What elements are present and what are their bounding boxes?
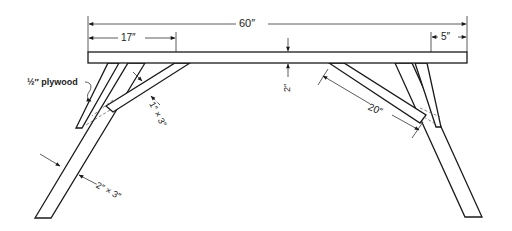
label-overall-length: 60″ [239,18,255,29]
label-plywood: ½″ plywood [27,77,78,88]
table-drawing [0,0,512,231]
right-leg [395,63,482,217]
right-leg-assembly [329,63,482,217]
label-right-overhang: 5″ [441,31,450,42]
label-leg-offset: 17″ [121,32,136,43]
table-top [88,52,467,63]
label-top-thickness: 2″ [282,84,293,92]
